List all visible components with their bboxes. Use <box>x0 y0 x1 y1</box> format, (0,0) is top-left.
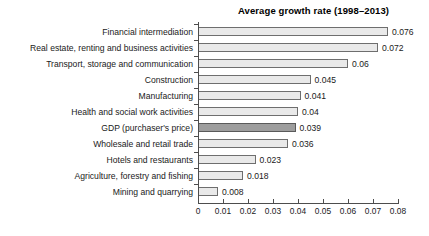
y-axis-tick <box>194 120 198 121</box>
category-label: Financial intermediation <box>102 26 193 38</box>
bar-row: Transport, storage and communication0.06 <box>0 56 429 72</box>
bar-row: Construction0.045 <box>0 72 429 88</box>
y-axis-tick <box>194 168 198 169</box>
plot-area: Financial intermediation0.076Real estate… <box>0 22 429 204</box>
bar <box>198 171 243 180</box>
bar-row: Agriculture, forestry and fishing0.018 <box>0 168 429 184</box>
bar-row: Hotels and restaurants0.023 <box>0 152 429 168</box>
x-axis-tick-label: 0.06 <box>340 206 356 216</box>
y-axis-line <box>198 22 199 204</box>
category-label: Transport, storage and communication <box>46 58 193 70</box>
y-axis-tick <box>194 40 198 41</box>
category-label: Manufacturing <box>139 90 193 102</box>
bar-value-label: 0.06 <box>352 58 369 70</box>
x-axis-tick <box>398 199 399 203</box>
x-axis-tick <box>348 199 349 203</box>
category-label: Hotels and restaurants <box>107 154 193 166</box>
bar <box>198 107 298 116</box>
category-label: Agriculture, forestry and fishing <box>75 170 193 182</box>
category-label: Health and social work activities <box>71 106 193 118</box>
bar <box>198 187 218 196</box>
category-label: Construction <box>145 74 193 86</box>
bar-row: Health and social work activities0.04 <box>0 104 429 120</box>
category-label: Mining and quarrying <box>113 186 193 198</box>
bar-value-label: 0.045 <box>315 74 337 86</box>
bar-value-label: 0.018 <box>247 170 269 182</box>
x-axis-tick-label: 0.03 <box>265 206 281 216</box>
bar-chart: Average growth rate (1998–2013) Financia… <box>0 0 429 236</box>
x-axis-tick-label: 0.07 <box>365 206 381 216</box>
x-axis-tick <box>273 199 274 203</box>
x-axis-tick-label: 0.08 <box>390 206 406 216</box>
y-axis-tick <box>194 136 198 137</box>
bar <box>198 43 378 52</box>
y-axis-tick <box>194 72 198 73</box>
x-axis-tick-label: 0.04 <box>290 206 306 216</box>
y-axis-tick <box>194 24 198 25</box>
x-axis-tick <box>223 199 224 203</box>
bar-value-label: 0.023 <box>260 154 282 166</box>
x-axis-tick <box>373 199 374 203</box>
y-axis-tick <box>194 88 198 89</box>
bar-value-label: 0.076 <box>392 26 414 38</box>
y-axis-tick <box>194 104 198 105</box>
x-axis-line <box>198 203 399 204</box>
x-axis-tick-label: 0.01 <box>215 206 231 216</box>
x-axis-tick-label: 0 <box>196 206 201 216</box>
category-label: GDP (purchaser's price) <box>101 122 193 134</box>
category-label: Real estate, renting and business activi… <box>30 42 193 54</box>
bar <box>198 91 301 100</box>
bar-value-label: 0.04 <box>302 106 319 118</box>
bar <box>198 139 288 148</box>
bar-row: Financial intermediation0.076 <box>0 24 429 40</box>
bar-row: Wholesale and retail trade0.036 <box>0 136 429 152</box>
bar-row: Manufacturing0.041 <box>0 88 429 104</box>
bar-value-label: 0.072 <box>382 42 404 54</box>
x-axis-tick-label: 0.02 <box>240 206 256 216</box>
bar-value-label: 0.008 <box>222 186 244 198</box>
x-axis-tick <box>248 199 249 203</box>
bar-value-label: 0.041 <box>305 90 327 102</box>
bar-highlighted <box>198 123 296 132</box>
x-axis-tick <box>198 199 199 203</box>
bar <box>198 59 348 68</box>
bar-row: Real estate, renting and business activi… <box>0 40 429 56</box>
y-axis-tick <box>194 56 198 57</box>
bar-value-label: 0.039 <box>300 122 322 134</box>
bar <box>198 155 256 164</box>
bar-row: Mining and quarrying0.008 <box>0 184 429 200</box>
category-label: Wholesale and retail trade <box>93 138 193 150</box>
bar <box>198 27 388 36</box>
x-axis-tick-label: 0.05 <box>315 206 331 216</box>
y-axis-tick <box>194 152 198 153</box>
bar <box>198 75 311 84</box>
x-axis-tick <box>298 199 299 203</box>
bar-value-label: 0.036 <box>292 138 314 150</box>
x-axis-tick <box>323 199 324 203</box>
bar-row: GDP (purchaser's price)0.039 <box>0 120 429 136</box>
y-axis-tick <box>194 184 198 185</box>
chart-title: Average growth rate (1998–2013) <box>198 5 429 16</box>
